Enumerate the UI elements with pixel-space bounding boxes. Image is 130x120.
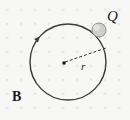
field-x-mark: × <box>19 6 23 13</box>
field-x-mark: × <box>89 62 93 69</box>
field-x-mark: × <box>5 48 9 55</box>
field-x-mark: × <box>47 6 51 13</box>
field-x-mark: × <box>19 104 23 111</box>
field-x-mark: × <box>61 34 65 41</box>
field-x-mark: × <box>89 6 93 13</box>
field-x-mark: × <box>47 76 51 83</box>
field-x-mark: × <box>61 20 65 27</box>
field-x-mark: × <box>19 48 23 55</box>
field-x-mark: × <box>117 34 121 41</box>
field-x-mark: × <box>75 6 79 13</box>
field-x-mark: × <box>75 34 79 41</box>
field-x-mark: × <box>61 6 65 13</box>
field-x-mark: × <box>5 104 9 111</box>
field-x-mark: × <box>89 104 93 111</box>
field-x-mark: × <box>61 90 65 97</box>
charge-particle-highlight <box>93 24 100 31</box>
field-x-mark: × <box>33 48 37 55</box>
field-x-mark: × <box>33 6 37 13</box>
field-x-mark: × <box>47 34 51 41</box>
radius-label: r <box>81 61 85 72</box>
field-x-mark: × <box>33 90 37 97</box>
field-x-mark: × <box>89 20 93 27</box>
field-x-mark: × <box>33 62 37 69</box>
field-x-mark: × <box>5 76 9 83</box>
field-x-mark: × <box>89 76 93 83</box>
magnetic-field-x-marks: ××××××××××××××××××××××××××××××××××××××××… <box>5 6 121 111</box>
field-x-mark: × <box>61 104 65 111</box>
field-x-mark: × <box>103 104 107 111</box>
field-x-mark: × <box>75 76 79 83</box>
field-x-mark: × <box>5 20 9 27</box>
field-x-mark: × <box>89 34 93 41</box>
field-x-mark: × <box>19 34 23 41</box>
field-x-mark: × <box>117 104 121 111</box>
field-x-mark: × <box>33 20 37 27</box>
magnetic-field-label: B <box>12 90 21 104</box>
field-x-mark: × <box>117 48 121 55</box>
radius-dashed-line <box>65 48 106 62</box>
field-x-mark: × <box>5 90 9 97</box>
field-x-mark: × <box>117 90 121 97</box>
charge-label: Q <box>107 9 118 24</box>
field-x-mark: × <box>103 90 107 97</box>
field-x-mark: × <box>75 90 79 97</box>
field-x-mark: × <box>47 104 51 111</box>
field-x-mark: × <box>19 76 23 83</box>
field-x-mark: × <box>19 62 23 69</box>
field-x-mark: × <box>33 104 37 111</box>
field-x-mark: × <box>47 20 51 27</box>
orbit-center-dot <box>63 62 66 65</box>
field-x-mark: × <box>5 6 9 13</box>
field-x-mark: × <box>19 20 23 27</box>
field-x-mark: × <box>47 62 51 69</box>
field-x-mark: × <box>5 34 9 41</box>
physics-diagram-figure: ××××××××××××××××××××××××××××××××××××××××… <box>0 0 130 120</box>
field-x-mark: × <box>75 104 79 111</box>
field-x-mark: × <box>47 48 51 55</box>
field-x-mark: × <box>117 62 121 69</box>
charge-particle-sphere <box>92 23 106 37</box>
field-x-mark: × <box>75 62 79 69</box>
field-x-mark: × <box>61 48 65 55</box>
field-x-mark: × <box>5 62 9 69</box>
field-x-mark: × <box>117 76 121 83</box>
field-x-mark: × <box>75 48 79 55</box>
field-x-mark: × <box>61 76 65 83</box>
